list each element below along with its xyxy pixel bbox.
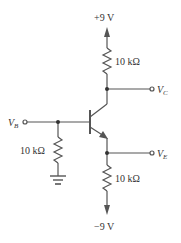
- supply-arrow-up-icon: [104, 27, 110, 37]
- emitter-resistor: [103, 165, 111, 191]
- collector-resistor-label: 10 kΩ: [115, 56, 140, 67]
- ve-sub: E: [162, 153, 168, 161]
- vc-label: VC: [157, 84, 168, 97]
- base-node: [56, 120, 60, 124]
- vc-terminal[interactable]: [150, 87, 154, 91]
- ve-label: VE: [157, 148, 168, 161]
- emitter-arrow-icon: [99, 131, 108, 139]
- supply-top-label: +9 V: [94, 12, 115, 23]
- vb-sub: B: [14, 122, 19, 130]
- supply-bottom-label: −9 V: [94, 221, 115, 232]
- emitter-resistor-label: 10 kΩ: [115, 173, 140, 184]
- emitter-node: [105, 151, 109, 155]
- vb-terminal[interactable]: [23, 120, 27, 124]
- base-resistor: [54, 137, 62, 163]
- supply-arrow-down-icon: [104, 205, 110, 215]
- collector-resistor: [103, 48, 111, 74]
- base-resistor-label: 10 kΩ: [20, 145, 45, 156]
- circuit-diagram: +9 V 10 kΩ VC VB 10 kΩ VE 10 kΩ −9 V: [0, 0, 181, 243]
- ground-icon: [50, 176, 66, 184]
- vb-label: VB: [8, 117, 19, 130]
- vc-sub: C: [163, 89, 168, 97]
- ve-terminal[interactable]: [150, 151, 154, 155]
- collector-node: [105, 87, 109, 91]
- transistor-collector-leg: [90, 104, 107, 117]
